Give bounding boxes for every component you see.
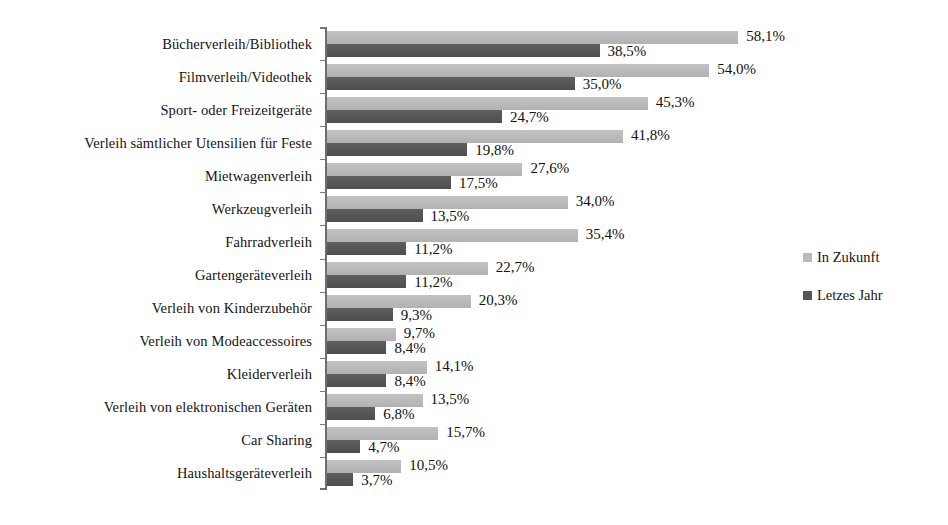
bar-value-label: 38,5% <box>608 45 647 58</box>
bar-value-label: 15,7% <box>446 426 485 439</box>
bar-value-label: 54,0% <box>717 63 756 76</box>
legend-item[interactable]: Letzes Jahr <box>803 283 883 307</box>
bar-letzes-jahr <box>327 44 600 57</box>
bar-letzes-jahr <box>327 275 406 288</box>
category-label: Bücherverleih/Bibliothek <box>162 37 312 52</box>
bar-value-label: 35,0% <box>583 78 622 91</box>
category-label: Sport- oder Freizeitgeräte <box>160 103 312 118</box>
legend-swatch-icon <box>803 253 812 262</box>
bar-in-zukunft <box>327 328 396 341</box>
bar-value-label: 17,5% <box>459 177 498 190</box>
bar-value-label: 9,3% <box>401 309 432 322</box>
bar-value-label: 6,8% <box>383 408 414 421</box>
category-label: Werkzeugverleih <box>212 202 312 217</box>
axis-tick <box>320 27 326 28</box>
category-label: Filmverleih/Videothek <box>179 70 312 85</box>
bar-value-label: 11,2% <box>414 243 452 256</box>
bar-value-label: 3,7% <box>361 474 392 487</box>
category-axis-labels: Bücherverleih/BibliothekFilmverleih/Vide… <box>0 27 318 490</box>
bar-value-label: 11,2% <box>414 276 452 289</box>
chart-legend: In ZukunftLetzes Jahr <box>803 245 883 321</box>
axis-tick <box>320 259 326 260</box>
category-label: Verleih sämtlicher Utensilien für Feste <box>84 136 312 151</box>
legend-item[interactable]: In Zukunft <box>803 245 883 269</box>
legend-label: Letzes Jahr <box>817 288 883 303</box>
bar-in-zukunft <box>327 130 623 143</box>
bar-letzes-jahr <box>327 473 353 486</box>
axis-tick <box>320 391 326 392</box>
bar-value-label: 9,7% <box>404 327 435 340</box>
axis-tick <box>320 424 326 425</box>
bar-value-label: 41,8% <box>631 129 670 142</box>
bar-in-zukunft <box>327 64 709 77</box>
legend-swatch-icon <box>803 291 812 300</box>
axis-tick <box>320 192 326 193</box>
bar-value-label: 14,1% <box>435 360 474 373</box>
bar-value-label: 8,4% <box>394 342 425 355</box>
bar-value-label: 20,3% <box>479 294 518 307</box>
bar-value-label: 4,7% <box>368 441 399 454</box>
bar-letzes-jahr <box>327 110 502 123</box>
bar-letzes-jahr <box>327 440 360 453</box>
bar-value-label: 10,5% <box>409 459 448 472</box>
category-label: Haushaltsgeräteverleih <box>177 466 312 481</box>
category-label: Gartengeräteverleih <box>195 268 312 283</box>
axis-tick <box>320 358 326 359</box>
legend-label: In Zukunft <box>817 250 879 265</box>
category-label: Mietwagenverleih <box>205 169 312 184</box>
bar-in-zukunft <box>327 163 522 176</box>
category-label: Kleiderverleih <box>227 367 312 382</box>
bar-in-zukunft <box>327 295 471 308</box>
bar-in-zukunft <box>327 229 578 242</box>
bar-value-label: 22,7% <box>496 261 535 274</box>
axis-tick <box>320 325 326 326</box>
axis-tick <box>320 225 326 226</box>
axis-cap-bottom <box>320 488 326 490</box>
axis-tick <box>320 93 326 94</box>
bar-letzes-jahr <box>327 209 423 222</box>
category-label: Verleih von Modeaccessoires <box>139 334 312 349</box>
bar-value-label: 8,4% <box>394 375 425 388</box>
bar-in-zukunft <box>327 262 488 275</box>
bar-letzes-jahr <box>327 341 386 354</box>
bar-value-label: 45,3% <box>656 96 695 109</box>
bar-value-label: 19,8% <box>475 144 514 157</box>
bar-chart: Bücherverleih/BibliothekFilmverleih/Vide… <box>0 0 948 525</box>
axis-tick <box>320 126 326 127</box>
axis-tick <box>320 60 326 61</box>
bar-letzes-jahr <box>327 242 406 255</box>
bar-letzes-jahr <box>327 308 393 321</box>
bar-in-zukunft <box>327 97 648 110</box>
bar-letzes-jahr <box>327 374 386 387</box>
bar-letzes-jahr <box>327 77 575 90</box>
bar-letzes-jahr <box>327 407 375 420</box>
bar-value-label: 58,1% <box>746 30 785 43</box>
bar-value-label: 24,7% <box>510 111 549 124</box>
bar-value-label: 34,0% <box>576 195 615 208</box>
bar-in-zukunft <box>327 31 738 44</box>
bar-value-label: 13,5% <box>431 210 470 223</box>
bar-value-label: 13,5% <box>431 393 470 406</box>
bar-in-zukunft <box>327 196 568 209</box>
bar-value-label: 35,4% <box>586 228 625 241</box>
axis-tick <box>320 159 326 160</box>
category-label: Verleih von elektronischen Geräten <box>104 400 312 415</box>
bar-letzes-jahr <box>327 176 451 189</box>
bar-value-label: 27,6% <box>530 162 569 175</box>
category-label: Fahrradverleih <box>225 235 312 250</box>
category-label: Verleih von Kinderzubehör <box>152 301 312 316</box>
axis-tick <box>320 292 326 293</box>
category-label: Car Sharing <box>241 433 312 448</box>
axis-tick <box>320 457 326 458</box>
bar-letzes-jahr <box>327 143 467 156</box>
